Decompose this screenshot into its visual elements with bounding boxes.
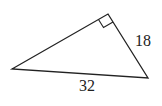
triangle xyxy=(12,14,148,78)
right-angle-marker xyxy=(99,20,114,28)
short-leg-label: 18 xyxy=(135,32,151,49)
triangle-diagram: 18 32 xyxy=(0,0,162,106)
hypotenuse-label: 32 xyxy=(79,77,95,94)
